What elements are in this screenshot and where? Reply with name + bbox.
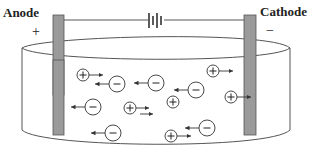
cathode-electrode bbox=[244, 15, 256, 135]
anion-icon bbox=[95, 76, 125, 92]
ions-group bbox=[71, 65, 251, 142]
cation-icon bbox=[207, 65, 233, 77]
cation-icon bbox=[124, 102, 153, 114]
cation-icon bbox=[77, 69, 103, 81]
cation-icon bbox=[167, 96, 179, 108]
cation-icon bbox=[165, 130, 191, 142]
anode-electrode-lower bbox=[53, 60, 64, 135]
anode-sign: + bbox=[32, 24, 40, 40]
cathode-sign: − bbox=[266, 23, 274, 39]
anion-icon bbox=[91, 125, 121, 141]
anion-icon bbox=[185, 120, 215, 136]
anode-label: Anode bbox=[3, 5, 39, 21]
anion-icon bbox=[134, 75, 164, 91]
battery-icon bbox=[149, 13, 161, 28]
cathode-label: Cathode bbox=[260, 4, 307, 20]
anion-icon bbox=[71, 99, 101, 115]
anion-icon bbox=[174, 82, 204, 98]
